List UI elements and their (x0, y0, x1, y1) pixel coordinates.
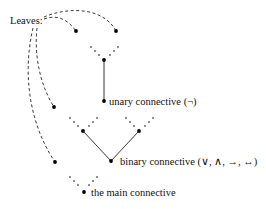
unary-connective-node (102, 99, 106, 103)
pointer-to-leaf-2 (44, 11, 116, 31)
binary-left-subtree-ellipsis (69, 117, 98, 127)
leaf-node-2 (114, 29, 118, 33)
main-connective-node (82, 190, 86, 194)
binary-connective-node (109, 159, 113, 163)
pointer-to-leaf-4 (28, 28, 55, 162)
parse-tree-diagram: Leaves: unary connective (¬) (0, 0, 266, 209)
leaf-node-3 (52, 105, 56, 109)
binary-connective-label: binary connective (∨, ∧, →, ↔) (120, 156, 258, 168)
main-subtree-ellipsis (69, 176, 98, 186)
unary-subtree-ellipsis (90, 46, 119, 56)
binary-right-subtree-ellipsis (125, 117, 154, 127)
pointer-to-leaf-3 (36, 28, 54, 107)
leaf-node-1 (74, 29, 78, 33)
binary-left-edge (83, 131, 111, 161)
leaves-label: Leaves: (10, 15, 43, 26)
main-connective-label: the main connective (91, 187, 176, 198)
unary-connective-label: unary connective (¬) (109, 96, 197, 108)
pointer-to-leaf-1 (44, 17, 76, 31)
leaf-node-4 (53, 160, 57, 164)
leaf-pointers (28, 11, 116, 162)
